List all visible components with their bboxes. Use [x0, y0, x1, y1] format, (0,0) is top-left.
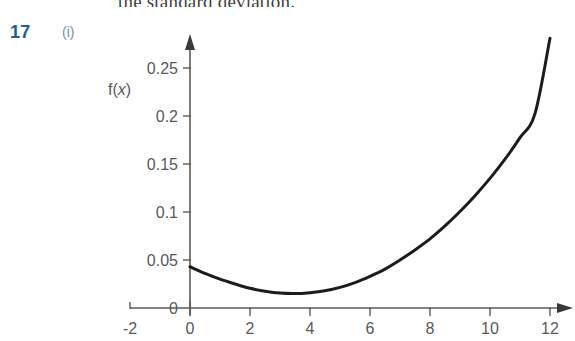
- y-tick-label-0: 0: [169, 300, 178, 317]
- y-axis: [185, 34, 195, 316]
- page-canvas: the standard deviation. 17 (i) f(x): [0, 0, 575, 341]
- x-tick-label-10: 10: [481, 320, 499, 337]
- x-tick-label-4: 4: [306, 320, 315, 337]
- y-axis-label: f(x): [108, 81, 131, 98]
- function-curve: [190, 38, 550, 293]
- y-axis-arrowhead: [185, 34, 195, 50]
- x-tick-label-2: 2: [246, 320, 255, 337]
- x-tick-label-0: 0: [186, 320, 195, 337]
- x-tick-label-6: 6: [366, 320, 375, 337]
- x-tick-label-8: 8: [426, 320, 435, 337]
- x-axis-arrowhead: [557, 303, 573, 313]
- function-graph: f(x) 0.25 0.2: [0, 0, 575, 341]
- y-tick-label-0.05: 0.05: [147, 252, 178, 269]
- y-tick-label-0.25: 0.25: [147, 60, 178, 77]
- y-tick-label-0.1: 0.1: [156, 204, 178, 221]
- y-tick-label-0.2: 0.2: [156, 108, 178, 125]
- x-tick-label--2: -2: [123, 320, 137, 337]
- x-axis-tick-labels: -2 0 2 4 6 8 10 12: [123, 320, 559, 337]
- x-axis: [130, 303, 573, 313]
- y-tick-label-0.15: 0.15: [147, 156, 178, 173]
- y-axis-tick-labels: 0.25 0.2 0.15 0.1 0.05 0: [147, 60, 178, 317]
- x-tick-label-12: 12: [541, 320, 559, 337]
